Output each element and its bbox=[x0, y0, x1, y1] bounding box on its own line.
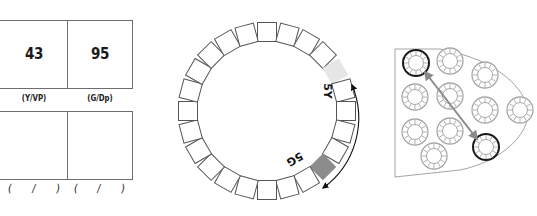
circle-element bbox=[437, 118, 463, 144]
circle-element bbox=[472, 62, 498, 88]
label-5y: 5Y bbox=[321, 83, 334, 100]
circle-element bbox=[472, 97, 498, 123]
ring-square bbox=[235, 23, 258, 46]
ring-square bbox=[258, 181, 277, 200]
circle-element bbox=[402, 119, 428, 145]
circle-element bbox=[507, 97, 533, 123]
hue-ring-diagram: 5Y 5G bbox=[0, 0, 537, 216]
ring-square bbox=[258, 23, 277, 42]
ring-square bbox=[179, 102, 198, 121]
ring-square bbox=[276, 176, 299, 199]
ring-square bbox=[332, 79, 355, 102]
circle-array bbox=[402, 48, 533, 169]
circle-element bbox=[421, 143, 447, 169]
label-5g: 5G bbox=[284, 149, 305, 169]
circle-element bbox=[437, 48, 463, 74]
circle-element bbox=[402, 84, 428, 110]
ring-squares bbox=[179, 23, 356, 200]
ring-square bbox=[337, 102, 356, 121]
ring-square bbox=[179, 120, 202, 143]
